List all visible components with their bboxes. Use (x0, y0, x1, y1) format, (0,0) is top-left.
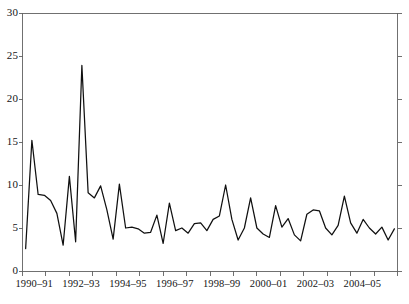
line-chart-plot (0, 0, 409, 304)
y-tick-label: 15 (0, 135, 18, 147)
chart-container: 051015202530 1990–911992–931994–951996–9… (0, 0, 409, 304)
y-tick-label: 25 (0, 49, 18, 61)
y-tick-label: 5 (0, 221, 18, 233)
x-axis-ticks (23, 271, 398, 276)
x-tick-label: 2004–05 (332, 278, 392, 289)
y-tick-label: 20 (0, 92, 18, 104)
y-tick-label: 30 (0, 6, 18, 18)
y-tick-label: 10 (0, 178, 18, 190)
y-tick-label: 0 (0, 264, 18, 276)
data-series-group (26, 65, 395, 248)
